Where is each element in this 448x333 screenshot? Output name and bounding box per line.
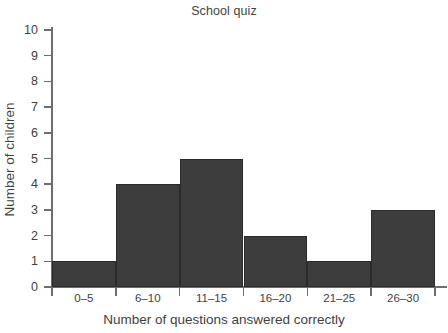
x-axis-tick	[115, 288, 117, 296]
y-axis-tick	[44, 235, 52, 237]
bar	[180, 159, 244, 288]
chart-container: School quiz 012345678910 0–56–1011–1516–…	[0, 0, 448, 333]
y-axis-tick	[44, 106, 52, 108]
y-axis-tick-label: 9	[31, 49, 38, 62]
x-axis-tick-label: 6–10	[135, 293, 161, 305]
x-axis-tick	[434, 288, 436, 296]
x-axis-tick-label: 11–15	[196, 293, 227, 305]
bar	[371, 210, 435, 287]
bar	[116, 184, 180, 287]
y-axis-tick	[44, 158, 52, 160]
y-axis-title: Number of children	[2, 31, 20, 288]
y-axis-tick-label: 5	[31, 152, 38, 165]
x-axis-tick-label: 16–20	[259, 293, 291, 305]
bar	[244, 236, 308, 287]
y-axis-tick-label: 0	[31, 281, 38, 294]
x-axis-tick	[307, 288, 309, 296]
bar	[52, 261, 116, 287]
y-axis-tick-label: 2	[31, 229, 38, 242]
y-axis-tick	[44, 209, 52, 211]
y-axis-tick	[44, 81, 52, 83]
x-axis-tick	[51, 288, 53, 296]
y-axis-tick	[44, 183, 52, 185]
chart-title: School quiz	[0, 4, 448, 18]
y-axis-tick-label: 7	[31, 101, 38, 114]
y-axis-tick-label: 6	[31, 127, 38, 140]
y-axis-tick-label: 3	[31, 204, 38, 217]
y-axis-tick	[44, 29, 52, 31]
bar	[307, 261, 371, 287]
x-axis-tick	[370, 288, 372, 296]
y-axis-tick-label: 4	[31, 178, 38, 191]
y-axis-tick-label: 8	[31, 75, 38, 88]
y-axis-tick-label: 10	[24, 24, 38, 37]
x-axis-title: Number of questions answered correctly	[0, 312, 448, 327]
x-axis-tick	[179, 288, 181, 296]
plot-area	[52, 30, 435, 287]
x-axis-tick	[243, 288, 245, 296]
y-axis-tick	[44, 132, 52, 134]
x-axis-tick-label: 21–25	[323, 293, 355, 305]
y-axis-tick-label: 1	[31, 255, 38, 268]
y-axis-tick	[44, 55, 52, 57]
y-axis-tick	[44, 261, 52, 263]
x-axis-tick-label: 26–30	[387, 293, 419, 305]
x-axis-tick-label: 0–5	[74, 293, 93, 305]
